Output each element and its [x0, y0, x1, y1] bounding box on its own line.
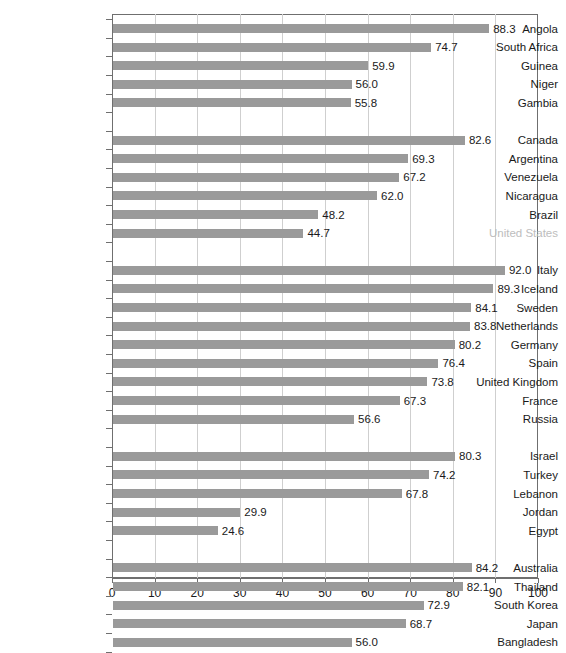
category-label: Argentina	[462, 153, 566, 165]
y-tick	[106, 149, 112, 150]
category-label: Netherlands	[462, 320, 566, 332]
y-tick	[106, 19, 112, 20]
bar	[113, 191, 377, 200]
bar-value-label: 55.8	[351, 97, 377, 109]
bar	[113, 619, 406, 628]
y-tick	[106, 354, 112, 355]
bar-value-label: 67.8	[402, 488, 428, 500]
category-label: Thailand	[462, 581, 566, 593]
bar-value-label: 62.0	[377, 190, 403, 202]
bar	[113, 470, 429, 479]
bar	[113, 322, 470, 331]
y-tick	[106, 466, 112, 467]
gridline	[453, 14, 454, 578]
bar-value-label: 76.4	[438, 357, 464, 369]
category-label: Bangladesh	[462, 636, 566, 648]
y-tick	[106, 168, 112, 169]
y-tick	[106, 373, 112, 374]
bar	[113, 266, 505, 275]
bar	[113, 80, 352, 89]
bar	[113, 340, 455, 349]
category-label: South Korea	[462, 599, 566, 611]
bar-value-label: 48.2	[318, 209, 344, 221]
bar	[113, 582, 463, 591]
y-tick	[106, 187, 112, 188]
y-tick	[106, 521, 112, 522]
bar-value-label: 56.6	[354, 413, 380, 425]
bar-value-label: 67.3	[400, 395, 426, 407]
bar	[113, 359, 438, 368]
category-label: United Kingdom	[462, 376, 566, 388]
y-tick	[106, 391, 112, 392]
category-label: Brazil	[462, 209, 566, 221]
bar	[113, 154, 408, 163]
y-tick	[106, 559, 112, 560]
bar-value-label: 69.3	[408, 153, 434, 165]
y-tick	[106, 596, 112, 597]
y-tick	[106, 633, 112, 634]
category-label: Turkey	[462, 469, 566, 481]
bar	[113, 43, 431, 52]
bar	[113, 303, 471, 312]
bar	[113, 563, 472, 572]
y-tick	[106, 242, 112, 243]
bar-value-label: 56.0	[352, 636, 378, 648]
y-tick	[106, 447, 112, 448]
bar-value-label: 73.8	[427, 376, 453, 388]
category-label: Angola	[462, 23, 566, 35]
bar-value-label: 56.0	[352, 78, 378, 90]
y-tick	[106, 261, 112, 262]
bar-value-label: 74.2	[429, 469, 455, 481]
y-tick	[106, 280, 112, 281]
y-tick	[106, 577, 112, 578]
bar-value-label: 59.9	[368, 60, 394, 72]
bar-value-label: 44.7	[303, 227, 329, 239]
bar-value-label: 24.6	[218, 525, 244, 537]
bar	[113, 508, 240, 517]
bar	[113, 489, 402, 498]
category-label: Spain	[462, 357, 566, 369]
y-tick	[106, 75, 112, 76]
category-label: Israel	[462, 450, 566, 462]
category-label: Japan	[462, 618, 566, 630]
bar	[113, 173, 399, 182]
category-label: Venezuela	[462, 171, 566, 183]
y-tick	[106, 38, 112, 39]
bar	[113, 377, 427, 386]
y-tick	[106, 410, 112, 411]
bar	[113, 210, 318, 219]
category-label: United States	[462, 227, 566, 239]
bar	[113, 452, 455, 461]
y-tick	[106, 317, 112, 318]
bar-value-label: 74.7	[431, 41, 457, 53]
category-label: Jordan	[462, 506, 566, 518]
bar	[113, 284, 493, 293]
bar-value-label: 67.2	[399, 171, 425, 183]
category-label: Lebanon	[462, 488, 566, 500]
y-tick	[106, 614, 112, 615]
y-tick	[106, 131, 112, 132]
category-label: South Africa	[462, 41, 566, 53]
y-tick	[106, 94, 112, 95]
category-label: Italy	[462, 264, 566, 276]
bar	[113, 601, 424, 610]
y-tick	[106, 205, 112, 206]
y-tick	[106, 540, 112, 541]
bar	[113, 396, 400, 405]
category-label: Egypt	[462, 525, 566, 537]
category-label: France	[462, 395, 566, 407]
y-tick	[106, 428, 112, 429]
category-label: Canada	[462, 134, 566, 146]
y-tick	[106, 56, 112, 57]
bar	[113, 415, 354, 424]
y-tick	[106, 224, 112, 225]
bar	[113, 229, 303, 238]
y-tick	[106, 112, 112, 113]
y-tick	[106, 298, 112, 299]
category-label: Gambia	[462, 97, 566, 109]
category-label: Russia	[462, 413, 566, 425]
y-tick	[106, 335, 112, 336]
y-tick	[106, 503, 112, 504]
bar-value-label: 29.9	[240, 506, 266, 518]
bar-value-label: 72.9	[424, 599, 450, 611]
